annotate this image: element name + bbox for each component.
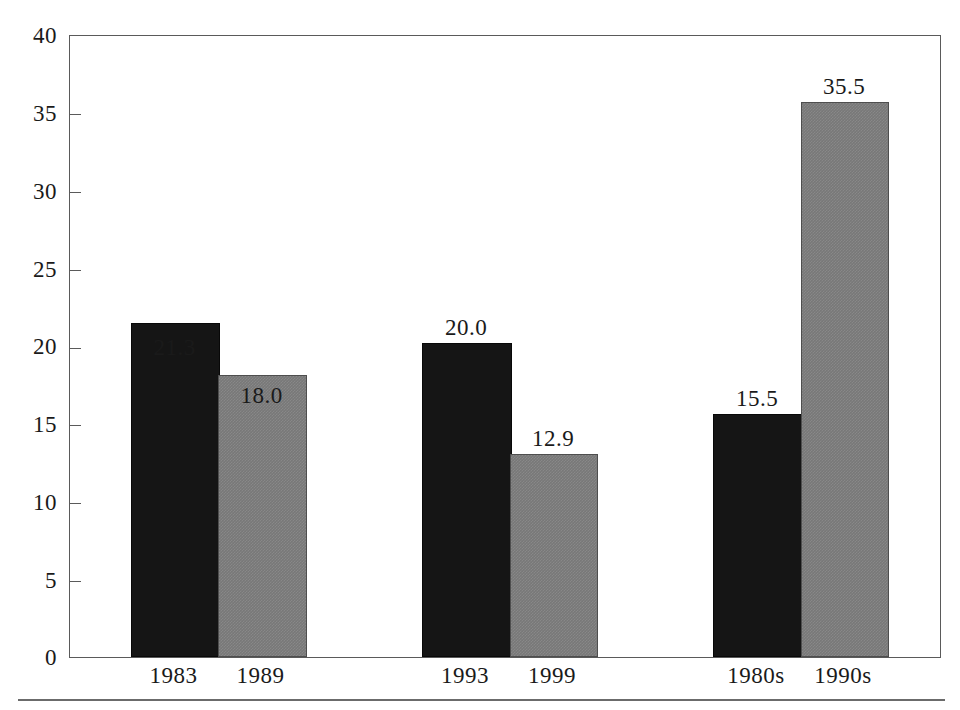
y-tick-35 (70, 114, 81, 115)
y-axis-label-group: 40 35 30 25 20 15 10 5 0 (0, 0, 57, 710)
y-axis-label-10: 10 (9, 491, 57, 514)
plot-area: 21.3 18.0 20.0 12.9 15.5 35.5 (69, 35, 941, 658)
x-axis-label-1983: 1983 (125, 663, 222, 689)
y-tick-15 (70, 425, 81, 426)
bar-1993[interactable] (422, 343, 512, 657)
bar-chart-figure: 40 35 30 25 20 15 10 5 0 21.3 18.0 20.0 … (0, 0, 960, 710)
y-tick-5 (70, 581, 81, 582)
y-axis-label-30: 30 (9, 180, 57, 203)
bottom-rule (18, 699, 945, 701)
y-axis-label-40: 40 (9, 24, 57, 47)
bar-1980s[interactable] (713, 414, 803, 657)
bar-value-1999: 12.9 (504, 427, 602, 450)
y-axis-label-5: 5 (9, 569, 57, 592)
bar-value-1993: 20.0 (417, 316, 515, 339)
x-axis-label-1989: 1989 (212, 663, 309, 689)
bar-1990s[interactable] (801, 102, 889, 657)
bar-value-1980s: 15.5 (708, 387, 806, 410)
x-axis-label-1980s: 1980s (707, 663, 805, 689)
bar-1989[interactable] (218, 375, 307, 657)
y-tick-20 (70, 348, 81, 349)
x-axis-label-1993: 1993 (416, 663, 514, 689)
y-tick-10 (70, 503, 81, 504)
y-tick-25 (70, 270, 81, 271)
y-tick-30 (70, 192, 81, 193)
bar-1983[interactable] (131, 323, 220, 657)
x-axis-label-1990s: 1990s (794, 663, 892, 689)
y-axis-label-25: 25 (9, 258, 57, 281)
x-axis-label-1999: 1999 (503, 663, 601, 689)
y-axis-label-15: 15 (9, 413, 57, 436)
x-axis-label-group: 1983 1989 1993 1999 1980s 1990s (0, 663, 960, 697)
bar-value-1989: 18.0 (213, 384, 310, 407)
bar-1999[interactable] (510, 454, 598, 657)
bar-value-1990s: 35.5 (795, 75, 893, 98)
bar-value-1983: 21.3 (126, 336, 223, 359)
y-axis-label-20: 20 (9, 335, 57, 358)
y-axis-label-35: 35 (9, 102, 57, 125)
